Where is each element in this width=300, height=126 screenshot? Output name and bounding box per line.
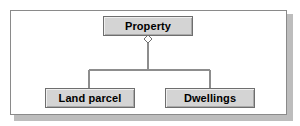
node-dwellings[interactable]: Dwellings — [165, 88, 255, 108]
node-land-parcel-label: Land parcel — [59, 93, 122, 104]
node-land-parcel[interactable]: Land parcel — [45, 88, 135, 108]
node-property[interactable]: Property — [103, 16, 193, 36]
node-property-label: Property — [125, 21, 171, 32]
diagram-canvas: Property Land parcel Dwellings — [0, 0, 300, 126]
node-dwellings-label: Dwellings — [184, 93, 236, 104]
